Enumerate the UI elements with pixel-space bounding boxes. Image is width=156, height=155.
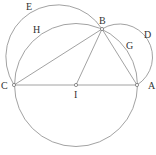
label-H: H bbox=[33, 24, 40, 35]
arc-E bbox=[6, 5, 102, 85]
label-E: E bbox=[26, 1, 32, 12]
label-D: D bbox=[144, 29, 151, 40]
geometry-diagram: A B C I D E G H bbox=[0, 0, 156, 155]
label-A: A bbox=[148, 80, 156, 91]
point-A bbox=[135, 83, 138, 86]
label-B: B bbox=[99, 15, 106, 26]
label-I: I bbox=[74, 89, 77, 100]
point-C bbox=[12, 83, 15, 86]
point-I bbox=[74, 83, 77, 86]
point-B bbox=[100, 27, 103, 30]
label-C: C bbox=[1, 80, 8, 91]
segment-BA bbox=[102, 29, 137, 85]
label-G: G bbox=[126, 40, 133, 51]
